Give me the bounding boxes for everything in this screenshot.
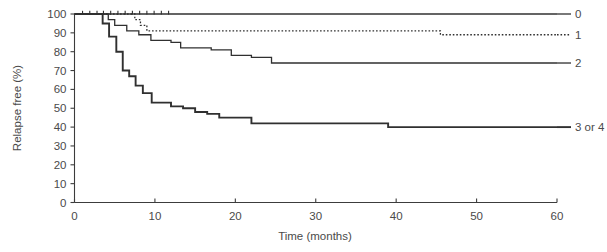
legend-label-3-or-4: 3 or 4 xyxy=(575,121,605,133)
x-axis-tick-labels: 0102030405060 xyxy=(71,210,563,222)
legend-label-0: 0 xyxy=(575,8,581,20)
y-tick-label: 50 xyxy=(54,102,67,114)
x-tick-label: 30 xyxy=(309,210,322,222)
x-tick-label: 20 xyxy=(229,210,242,222)
legend-label-1: 1 xyxy=(575,29,581,41)
x-tick-label: 0 xyxy=(71,210,77,222)
chart-figure: 0102030405060708090100 0102030405060 012… xyxy=(0,0,607,252)
series-line-1 xyxy=(75,14,558,35)
kaplan-meier-chart: 0102030405060708090100 0102030405060 012… xyxy=(0,0,607,252)
y-tick-label: 60 xyxy=(54,83,67,95)
x-tick-label: 10 xyxy=(149,210,162,222)
legend-label-2: 2 xyxy=(575,57,581,69)
y-axis-ticks xyxy=(71,14,75,203)
y-axis-tick-labels: 0102030405060708090100 xyxy=(47,8,66,209)
y-tick-label: 100 xyxy=(47,8,66,20)
y-tick-label: 90 xyxy=(54,27,67,39)
y-tick-label: 10 xyxy=(54,178,67,190)
series-line-2 xyxy=(75,14,558,63)
x-axis-title: Time (months) xyxy=(278,230,352,242)
y-tick-label: 40 xyxy=(54,121,67,133)
y-tick-label: 70 xyxy=(54,65,67,77)
x-tick-label: 40 xyxy=(390,210,403,222)
series-line-3 xyxy=(75,14,558,127)
x-tick-label: 60 xyxy=(551,210,564,222)
series-curves xyxy=(75,14,558,127)
x-tick-label: 50 xyxy=(470,210,483,222)
series-legend: 0123 or 4 xyxy=(557,8,605,133)
y-tick-label: 30 xyxy=(54,140,67,152)
y-tick-label: 0 xyxy=(60,197,66,209)
x-axis-ticks xyxy=(75,199,558,203)
y-tick-label: 20 xyxy=(54,159,67,171)
y-axis-title: Relapse free (%) xyxy=(11,65,23,151)
y-tick-label: 80 xyxy=(54,46,67,58)
